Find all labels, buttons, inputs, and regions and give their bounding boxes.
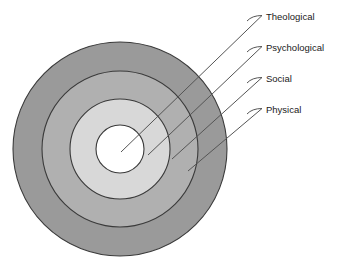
diagram-canvas: Theological Psychological Social Physica… (0, 0, 353, 265)
ring-theological (96, 125, 144, 173)
label-social: Social (266, 73, 292, 84)
label-psychological: Psychological (266, 42, 324, 53)
label-theological: Theological (266, 11, 315, 22)
concentric-rings-diagram: Theological Psychological Social Physica… (0, 0, 353, 265)
label-physical: Physical (266, 104, 301, 115)
